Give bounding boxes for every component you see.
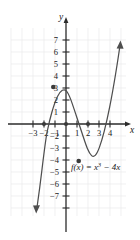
point-root-origin <box>64 122 68 126</box>
equation-head: f(x) = x <box>71 162 98 172</box>
curve-arrow-down <box>33 205 40 213</box>
x-axis-label: x <box>129 125 135 135</box>
curve-arrow-up <box>117 41 124 49</box>
xtick-label-3: 3 <box>97 128 101 138</box>
point-root-left <box>42 122 46 126</box>
equation-tail: − 4x <box>101 162 120 172</box>
xtick-label--3: −3 <box>28 128 37 138</box>
ytick-label--5: −5 <box>50 167 59 177</box>
ytick-label-5: 5 <box>54 59 58 69</box>
ytick-label--2: −2 <box>50 131 59 141</box>
y-axis-label: y <box>58 12 64 22</box>
xtick-label-2: 2 <box>86 128 90 138</box>
point-root-right <box>86 122 90 126</box>
grid-lines <box>11 28 126 216</box>
x-axis <box>8 122 131 127</box>
function-graph-figure: −3 −2 −1 1 2 3 4 7 6 5 4 3 2 1 −2 −3 −4 … <box>0 0 140 240</box>
ytick-label-7: 7 <box>54 35 58 45</box>
ytick-label--6: −6 <box>50 179 59 189</box>
function-equation-label: f(x) = x3 − 4x <box>71 161 120 172</box>
point-local-maximum <box>51 85 56 90</box>
ytick-label-1: 1 <box>54 107 58 117</box>
ytick-label-6: 6 <box>54 47 58 57</box>
ytick-label--4: −4 <box>50 155 60 165</box>
ytick-label--3: −3 <box>50 143 59 153</box>
plot-canvas: −3 −2 −1 1 2 3 4 7 6 5 4 3 2 1 −2 −3 −4 … <box>0 0 140 240</box>
ytick-label--7: −7 <box>50 191 59 201</box>
xtick-label-1: 1 <box>75 128 79 138</box>
